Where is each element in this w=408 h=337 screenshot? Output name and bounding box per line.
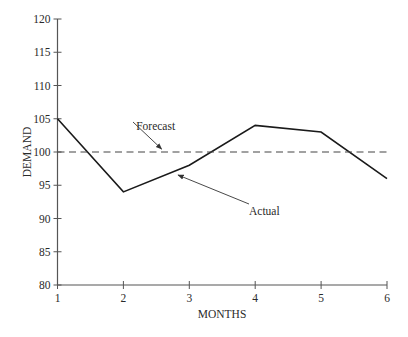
x-axis: 123456 bbox=[55, 281, 391, 304]
actual-arrow-icon bbox=[178, 175, 249, 204]
x-tick-label: 3 bbox=[186, 292, 192, 304]
y-tick-label: 120 bbox=[33, 13, 51, 25]
y-tick-label: 105 bbox=[33, 113, 51, 125]
plot-series bbox=[58, 119, 388, 192]
y-tick-label: 115 bbox=[34, 46, 51, 58]
y-tick-label: 100 bbox=[33, 146, 51, 158]
y-axis-label: DEMAND bbox=[21, 127, 33, 177]
series-actual-line bbox=[58, 119, 388, 192]
y-tick-label: 90 bbox=[39, 213, 51, 225]
x-tick-label: 4 bbox=[252, 292, 258, 304]
actual-annotation-label: Actual bbox=[249, 205, 280, 217]
y-axis: 80859095100105110115120 bbox=[33, 13, 61, 291]
x-tick-label: 2 bbox=[121, 292, 127, 304]
x-tick-label: 1 bbox=[55, 292, 61, 304]
demand-line-chart: 80859095100105110115120 123456 ForecastA… bbox=[0, 0, 408, 337]
x-tick-label: 6 bbox=[384, 292, 390, 304]
x-axis-label: MONTHS bbox=[198, 308, 247, 320]
y-tick-label: 95 bbox=[39, 179, 51, 191]
y-tick-label: 80 bbox=[39, 279, 51, 291]
y-tick-label: 85 bbox=[39, 246, 51, 258]
annotations: ForecastActual bbox=[133, 120, 280, 217]
x-tick-label: 5 bbox=[318, 292, 324, 304]
y-tick-label: 110 bbox=[34, 80, 51, 92]
